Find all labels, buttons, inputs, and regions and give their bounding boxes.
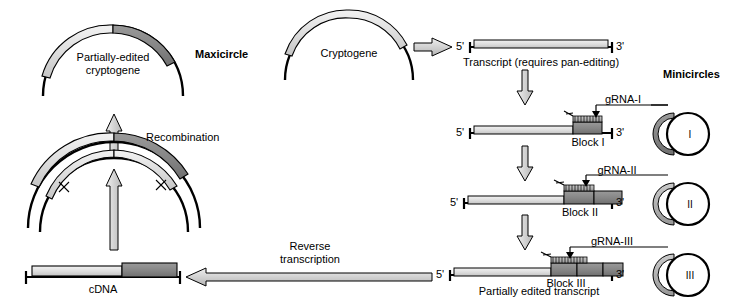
reverse-transcription-label-line2: transcription: [280, 253, 340, 266]
maxicircle-title: Maxicircle: [195, 48, 248, 61]
block-ii-3prime-label: 3': [616, 196, 624, 209]
maxicircle-cryptogene-arc-group: [285, 10, 413, 80]
block-ii-5prime-label: 5': [450, 196, 458, 209]
minicircle-ii-icon: [653, 183, 709, 225]
reverse-transcription-label-line1: Reverse: [290, 240, 331, 253]
partially-edited-cryptogene-label-line1: Partially-edited: [77, 51, 150, 64]
block-ii-bar-group: [464, 180, 622, 209]
cryptogene-label: Cryptogene: [321, 47, 378, 60]
minicircle-iii-label: III: [686, 269, 694, 282]
arrow-up-to-recombination: [106, 169, 122, 250]
transcript-label: Transcript (requires pan-editing): [463, 56, 619, 69]
recombination-label: Recombination: [146, 131, 219, 144]
minicircle-i-label: I: [689, 128, 692, 141]
transcript-3prime-label: 3': [616, 40, 624, 53]
block-i-5prime-label: 5': [456, 126, 464, 139]
grna-ii-label: gRNA-II: [597, 164, 636, 177]
minicircle-ii-label: II: [687, 198, 693, 211]
arrow-left-reverse-transcription: [186, 268, 432, 286]
block-iii-5prime-label: 5': [436, 268, 444, 281]
cdna-label: cDNA: [89, 283, 118, 296]
block-i-3prime-label: 3': [616, 126, 624, 139]
block-iii-3prime-label: 3': [616, 268, 624, 281]
block-i-bar-group: [470, 111, 612, 139]
arrow-down-to-block-i: [517, 70, 533, 105]
minicircles-title: Minicircles: [663, 68, 720, 81]
block-iii-bar-group: [450, 252, 623, 281]
transcript-bar-group: [470, 40, 612, 53]
pan-editing-diagram: Maxicircle Minicircles Partially-edited …: [0, 0, 731, 308]
partially-edited-cryptogene-label-line2: cryptogene: [86, 64, 140, 77]
minicircle-i-icon: [653, 113, 709, 155]
arrow-right-transcription: [414, 38, 452, 56]
cdna-bar-group: [26, 263, 180, 284]
block-i-label: Block I: [571, 136, 604, 149]
crossover-x-right-icon: [156, 180, 166, 190]
grna-i-pointer-arrow-icon: [592, 105, 668, 118]
grna-i-label: gRNA-I: [605, 93, 641, 106]
arrow-down-to-block-iii: [517, 215, 533, 250]
grna-iii-label: gRNA-III: [591, 235, 633, 248]
arrow-down-to-block-ii: [517, 146, 533, 181]
block-iii-label: Block III: [546, 277, 585, 290]
block-ii-label: Block II: [562, 206, 598, 219]
crossover-x-left-icon: [59, 182, 69, 192]
minicircle-iii-icon: [653, 254, 709, 296]
transcript-5prime-label: 5': [456, 40, 464, 53]
